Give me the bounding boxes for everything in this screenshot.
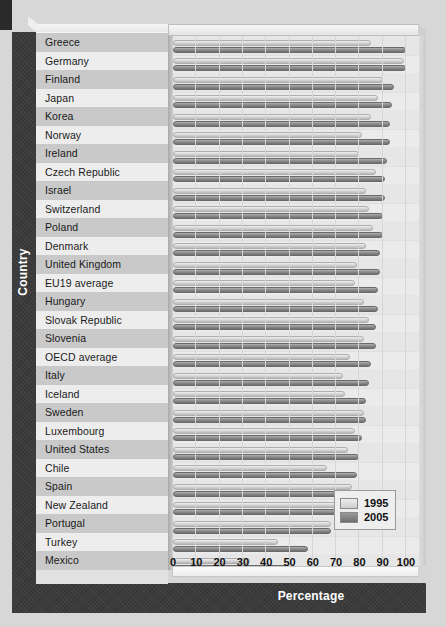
category-label-japan: Japan [36,89,168,108]
bar-1995-iceland [173,391,345,397]
category-label-spain: Spain [36,477,168,496]
category-label-slovenia: Slovenia [36,329,168,348]
category-label-text: Hungary [45,295,85,307]
bar-1995-finland [173,77,383,83]
category-label-ireland: Ireland [36,144,168,163]
bar-1995-italy [173,373,343,379]
bar-2005-slovak-republic [173,324,376,330]
gridline-40 [265,36,266,566]
bar-1995-eu19-average [173,280,355,286]
gridline-90 [382,36,383,566]
category-label-text: Turkey [45,536,77,548]
bar-1995-new-zealand [173,502,338,508]
category-label-text: Portugal [45,517,85,529]
bar-1995-japan [173,95,378,101]
category-label-text: Luxembourg [45,425,104,437]
category-label-text: Finland [45,73,80,85]
category-label-greece: Greece [36,33,168,52]
bar-2005-new-zealand [173,509,355,515]
bar-1995-spain [173,484,352,490]
x-tick-label-60: 60 [307,556,319,568]
category-label-text: Korea [45,110,74,122]
bar-1995-israel [173,188,366,194]
x-tick-label-10: 10 [190,556,202,568]
category-label-poland: Poland [36,218,168,237]
x-tick-label-40: 40 [260,556,272,568]
category-label-text: United States [45,443,109,455]
category-label-text: Italy [45,369,65,381]
category-label-portugal: Portugal [36,514,168,533]
bar-2005-eu19-average [173,287,378,293]
bar-2005-italy [173,380,369,386]
x-tick-label-100: 100 [397,556,415,568]
plot-top-slab [168,24,419,36]
bar-2005-finland [173,84,394,90]
category-label-chile: Chile [36,459,168,478]
legend-label-1995: 1995 [364,497,388,509]
plot-right-wall [419,36,426,566]
category-label-turkey: Turkey [36,533,168,552]
bar-1995-ireland [173,151,359,157]
bar-2005-korea [173,121,390,127]
category-label-united-kingdom: United Kingdom [36,255,168,274]
x-tick-label-50: 50 [283,556,295,568]
bar-2005-iceland [173,398,366,404]
bar-1995-switzerland [173,206,369,212]
category-label-norway: Norway [36,126,168,145]
x-tick-label-0: 0 [170,556,176,568]
chart-figure: Country GreeceGermanyFinlandJapanKoreaNo… [0,0,446,627]
bar-1995-czech-republic [173,169,376,175]
bar-1995-poland [173,225,373,231]
gridline-50 [289,36,290,566]
bar-2005-israel [173,195,385,201]
category-label-finland: Finland [36,70,168,89]
plot-canvas [172,36,420,566]
bar-2005-luxembourg [173,435,362,441]
category-label-text: Chile [45,462,69,474]
x-tick-label-20: 20 [213,556,225,568]
bar-2005-poland [173,232,383,238]
gridline-10 [195,36,196,566]
category-label-text: Mexico [45,554,79,566]
bar-2005-hungary [173,306,378,312]
category-label-text: Iceland [45,388,80,400]
bar-1995-norway [173,132,362,138]
bar-2005-united-kingdom [173,269,380,275]
x-tick-label-90: 90 [377,556,389,568]
category-label-text: Poland [45,221,78,233]
category-label-korea: Korea [36,107,168,126]
category-label-text: Israel [45,184,71,196]
gridline-30 [242,36,243,566]
category-label-eu19-average: EU19 average [36,274,168,293]
category-label-luxembourg: Luxembourg [36,422,168,441]
gridline-80 [358,36,359,566]
corner-notch [0,0,12,30]
chart-legend: 1995 2005 [334,490,396,530]
category-label-denmark: Denmark [36,237,168,256]
category-label-iceland: Iceland [36,385,168,404]
bar-2005-greece [173,47,406,53]
category-label-germany: Germany [36,52,168,71]
category-label-slovak-republic: Slovak Republic [36,311,168,330]
category-label-switzerland: Switzerland [36,200,168,219]
bar-2005-sweden [173,417,366,423]
bar-2005-denmark [173,250,380,256]
x-tick-label-70: 70 [330,556,342,568]
category-label-text: Germany [45,55,89,67]
x-tick-label-80: 80 [353,556,365,568]
category-label-panel: GreeceGermanyFinlandJapanKoreaNorwayIrel… [36,32,168,584]
category-label-text: United Kingdom [45,258,121,270]
category-label-text: Norway [45,129,81,141]
x-axis-title: Percentage [226,589,396,603]
category-label-text: OECD average [45,351,117,363]
bar-2005-portugal [173,528,331,534]
category-label-text: Denmark [45,240,88,252]
bar-2005-united-states [173,454,359,460]
x-axis-ticks: 0102030405060708090100 [168,556,426,574]
legend-item-2005: 2005 [340,511,388,523]
bar-2005-switzerland [173,213,383,219]
legend-item-1995: 1995 [340,497,388,509]
category-label-text: Japan [45,92,74,104]
category-label-hungary: Hungary [36,292,168,311]
category-label-text: Ireland [45,147,78,159]
